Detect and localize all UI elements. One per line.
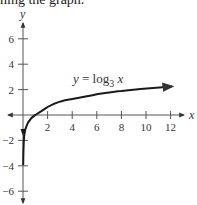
log-graph: x y 2 4 6 8 10 12 6 4 2 −2 −4 −6 y	[0, 0, 197, 205]
x-tick-labels: 2 4 6 8 10 12	[45, 121, 176, 133]
equation-label: y = log3 x	[71, 71, 123, 89]
svg-text:4: 4	[69, 121, 75, 133]
svg-text:−2: −2	[2, 134, 14, 146]
svg-text:8: 8	[119, 121, 125, 133]
svg-text:−4: −4	[2, 160, 14, 172]
svg-text:6: 6	[94, 121, 100, 133]
svg-text:4: 4	[9, 58, 15, 70]
svg-text:12: 12	[165, 121, 176, 133]
y-axis-label: y	[19, 7, 26, 21]
svg-text:−6: −6	[2, 185, 14, 197]
svg-text:2: 2	[9, 84, 15, 96]
svg-text:2: 2	[45, 121, 51, 133]
svg-text:6: 6	[9, 33, 15, 45]
x-axis-label: x	[188, 108, 195, 122]
svg-text:10: 10	[141, 121, 153, 133]
